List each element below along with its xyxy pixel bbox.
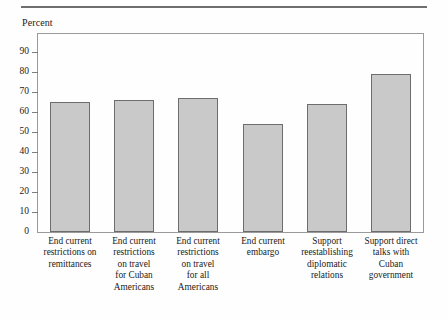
- bar: [371, 74, 411, 232]
- x-axis-category-label: End currentembargo: [228, 236, 298, 259]
- bar: [50, 102, 90, 232]
- x-axis-category-label: End currentrestrictionson travelfor Cuba…: [99, 236, 169, 293]
- x-axis-category-label-line: reestablishing: [292, 247, 362, 258]
- y-axis-tick-label: 80: [20, 65, 30, 78]
- x-axis-labels: End currentrestrictions onremittancesEnd…: [38, 236, 423, 316]
- x-axis-category-label-line: on travel: [163, 259, 233, 270]
- x-axis-category-label-line: talks with: [356, 247, 426, 258]
- y-axis-tick-label: 20: [20, 185, 30, 198]
- y-axis-tick-label: 40: [20, 145, 30, 158]
- x-axis-category-label-line: Support direct: [356, 236, 426, 247]
- y-axis-tick-label: 90: [20, 45, 30, 58]
- y-axis-tick-label: 10: [20, 205, 30, 218]
- x-axis-category-label-line: restrictions: [99, 247, 169, 258]
- x-axis-category-label-line: Americans: [163, 282, 233, 293]
- x-axis-category-label-line: restrictions: [163, 247, 233, 258]
- bar-chart-figure: Percent 0102030405060708090 End currentr…: [0, 0, 448, 319]
- x-axis-category-label-line: relations: [292, 270, 362, 281]
- x-axis-category-label-line: End current: [228, 236, 298, 247]
- y-axis-tick-label: 50: [20, 125, 30, 138]
- x-axis-category-label-line: government: [356, 270, 426, 281]
- x-axis-category-label-line: Support: [292, 236, 362, 247]
- x-axis-category-label-line: End current: [99, 236, 169, 247]
- bar: [178, 98, 218, 232]
- x-axis-category-label: End currentrestrictions onremittances: [35, 236, 105, 270]
- x-axis-category-label-line: Americans: [99, 282, 169, 293]
- x-axis-category-label-line: Cuban: [356, 259, 426, 270]
- bar: [114, 100, 154, 232]
- x-axis-category-label-line: on travel: [99, 259, 169, 270]
- y-axis-tick-label: 30: [20, 165, 30, 178]
- bars-layer: [38, 34, 423, 232]
- y-axis-tick-label: 0: [24, 225, 29, 238]
- bar: [307, 104, 347, 232]
- x-axis-category-label-line: restrictions on: [35, 247, 105, 258]
- x-axis-category-label: Supportreestablishingdiplomaticrelations: [292, 236, 362, 282]
- y-axis-caption: Percent: [22, 17, 53, 29]
- x-axis-category-label-line: remittances: [35, 259, 105, 270]
- x-axis-category-label: End currentrestrictionson travelfor allA…: [163, 236, 233, 293]
- x-axis-category-label-line: End current: [35, 236, 105, 247]
- x-axis-category-label-line: for all: [163, 270, 233, 281]
- x-axis-category-label-line: diplomatic: [292, 259, 362, 270]
- y-axis-tick-label: 60: [20, 105, 30, 118]
- top-divider-rule: [21, 6, 427, 8]
- y-axis-tick-label: 70: [20, 85, 30, 98]
- x-axis-category-label: Support directtalks withCubangovernment: [356, 236, 426, 282]
- x-axis-category-label-line: End current: [163, 236, 233, 247]
- x-axis-category-label-line: embargo: [228, 247, 298, 258]
- bar: [243, 124, 283, 232]
- x-axis-category-label-line: for Cuban: [99, 270, 169, 281]
- y-axis: 0102030405060708090: [0, 33, 38, 233]
